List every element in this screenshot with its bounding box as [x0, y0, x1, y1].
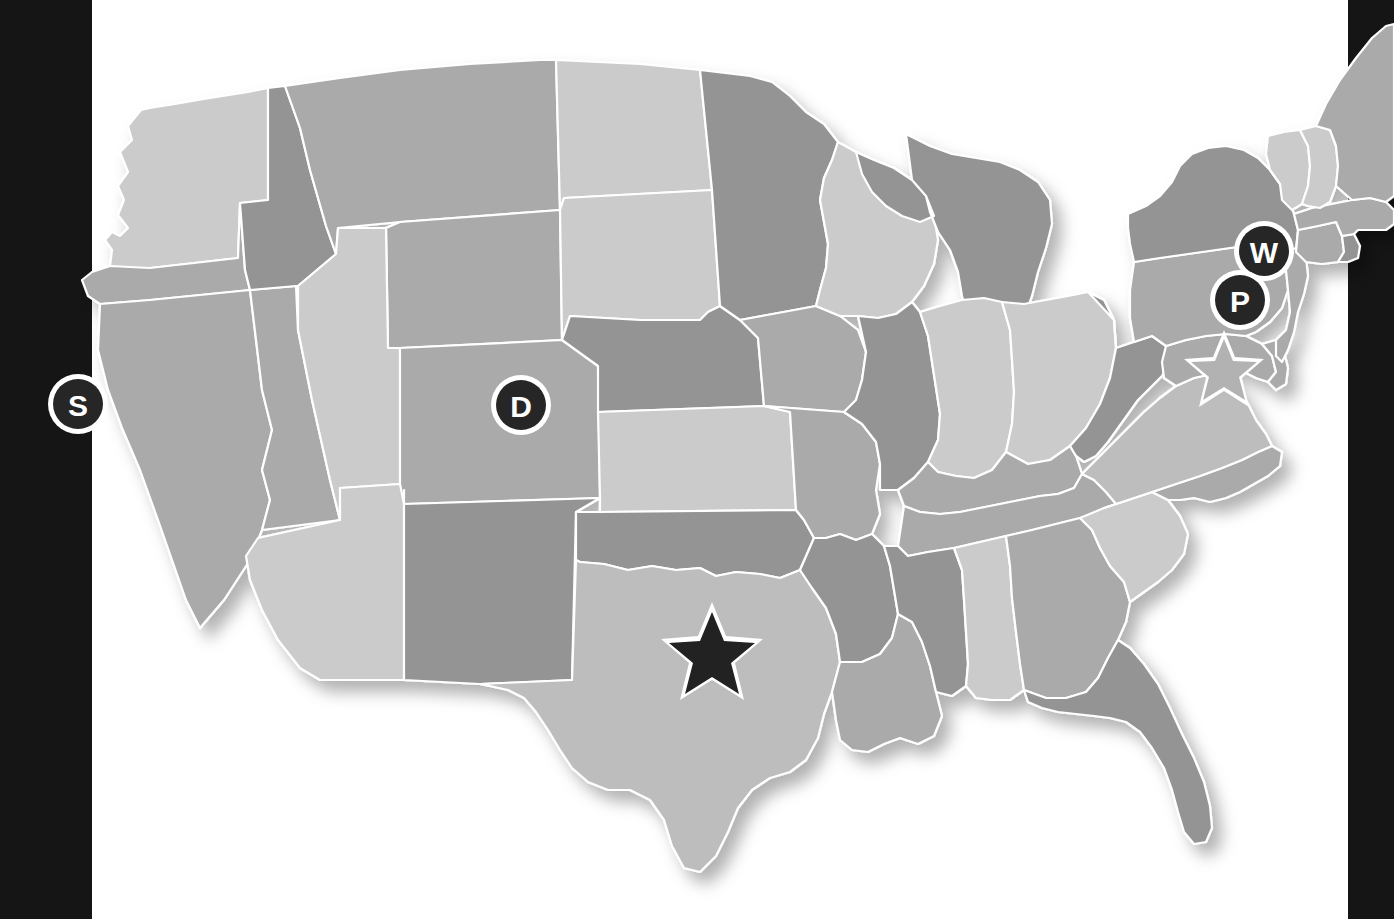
- state-CA[interactable]: [98, 290, 272, 628]
- us-map-container: S D W P: [0, 0, 1394, 919]
- marker-d[interactable]: D: [491, 375, 551, 435]
- state-WY[interactable]: [386, 210, 562, 348]
- state-ND[interactable]: [556, 60, 712, 210]
- us-map-svg: S D W P: [0, 0, 1394, 919]
- marker-w-label: W: [1250, 236, 1279, 269]
- state-KS[interactable]: [598, 406, 796, 512]
- marker-p-label: P: [1230, 285, 1250, 318]
- states-group: [82, 24, 1394, 872]
- map-page: S D W P: [0, 0, 1394, 919]
- state-MN[interactable]: [700, 70, 838, 320]
- marker-p[interactable]: P: [1210, 270, 1270, 330]
- marker-s-label: S: [68, 389, 88, 422]
- state-NM[interactable]: [404, 490, 600, 684]
- marker-d-label: D: [510, 390, 532, 423]
- marker-s[interactable]: S: [48, 374, 108, 434]
